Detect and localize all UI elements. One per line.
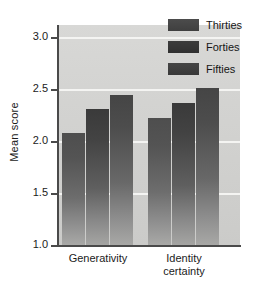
bar-chart-figure: Mean score 1.01.52.02.53.0 GenerativityI… bbox=[0, 0, 262, 285]
legend-item-thirties: Thirties bbox=[168, 14, 260, 35]
bar-identity-certainty-forties bbox=[172, 103, 195, 245]
bar-identity-certainty-thirties bbox=[148, 118, 171, 245]
x-axis-spine bbox=[57, 245, 241, 247]
y-tick-mark bbox=[51, 89, 58, 91]
y-axis-spine bbox=[57, 25, 59, 246]
y-tick-mark bbox=[51, 193, 58, 195]
x-tick-label-line: certainty bbox=[134, 265, 234, 278]
legend: ThirtiesFortiesFifties bbox=[168, 14, 260, 80]
y-tick-mark bbox=[51, 141, 58, 143]
y-tick-mark bbox=[51, 245, 58, 247]
y-tick-label: 2.0 bbox=[8, 134, 48, 146]
bar-identity-certainty-fifties bbox=[196, 88, 219, 245]
x-tick-label-line: Generativity bbox=[48, 252, 148, 265]
legend-swatch-icon bbox=[168, 41, 199, 53]
bar-generativity-thirties bbox=[62, 133, 85, 245]
legend-swatch-icon bbox=[168, 63, 199, 75]
legend-label: Forties bbox=[206, 41, 240, 53]
x-tick-label-line: Identity bbox=[134, 252, 234, 265]
legend-swatch-icon bbox=[168, 19, 199, 31]
y-tick-label: 2.5 bbox=[8, 82, 48, 94]
bar-generativity-forties bbox=[86, 109, 109, 245]
legend-item-fifties: Fifties bbox=[168, 58, 260, 79]
y-tick-mark bbox=[51, 37, 58, 39]
legend-label: Fifties bbox=[206, 63, 235, 75]
y-tick-label: 1.0 bbox=[8, 238, 48, 250]
y-tick-label: 3.0 bbox=[8, 30, 48, 42]
y-tick-label: 1.5 bbox=[8, 186, 48, 198]
bar-generativity-fifties bbox=[110, 95, 133, 245]
legend-item-forties: Forties bbox=[168, 36, 260, 57]
x-tick-label: Identitycertainty bbox=[134, 252, 234, 277]
legend-label: Thirties bbox=[206, 19, 242, 31]
x-tick-label: Generativity bbox=[48, 252, 148, 265]
